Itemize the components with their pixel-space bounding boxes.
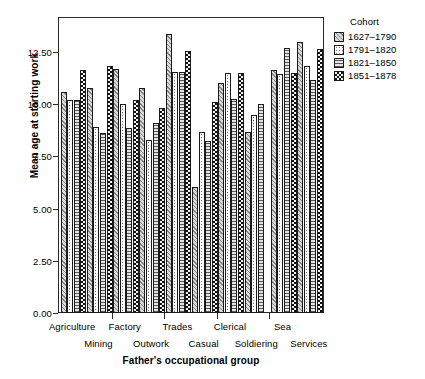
x-tick-mark [164, 313, 165, 319]
legend-item: 1821–1850 [334, 57, 422, 68]
bar [179, 72, 185, 313]
bar-group [138, 18, 164, 313]
bar [192, 187, 198, 313]
bar [126, 128, 132, 313]
bar-group [164, 18, 190, 313]
x-tick-label: Outwork [133, 338, 169, 349]
bar [199, 132, 205, 313]
x-tick-label: Soldiering [235, 338, 278, 349]
legend-swatch [334, 45, 344, 55]
x-tick-label: Sea [274, 321, 291, 332]
legend-label: 1791–1820 [348, 44, 396, 55]
bar [304, 66, 310, 313]
bar [100, 133, 106, 313]
bar-group [217, 18, 243, 313]
bar [166, 34, 172, 313]
x-axis-title: Father's occupational group [58, 355, 324, 366]
bar [120, 104, 126, 313]
x-tick-label: Factory [109, 321, 141, 332]
x-tick-label: Mining [84, 338, 113, 349]
bar [153, 123, 159, 313]
x-tick-mark [269, 313, 270, 319]
bar [258, 104, 264, 313]
x-tick-label: Casual [189, 338, 219, 349]
x-tick-mark [217, 313, 218, 319]
bar [317, 49, 323, 313]
y-tick-label: 2.50 [33, 255, 52, 266]
bar [113, 69, 119, 313]
bar-group [112, 18, 138, 313]
bar [284, 48, 290, 313]
bar [251, 115, 257, 313]
y-axis-tick-labels: 0.002.505.007.5010.0012.50 [0, 0, 52, 379]
bar [218, 83, 224, 313]
y-tick-mark [53, 156, 58, 157]
x-tick-label: Agriculture [49, 321, 96, 332]
legend-swatch [334, 58, 344, 68]
y-tick-mark [53, 52, 58, 53]
legend-label: 1851–1878 [348, 70, 396, 81]
legend-item: 1791–1820 [334, 44, 422, 55]
bar-group [269, 18, 295, 313]
y-tick-mark [53, 209, 58, 210]
y-tick-mark [53, 261, 58, 262]
bar [225, 73, 231, 313]
bar [87, 88, 93, 314]
bar [93, 127, 99, 313]
legend-label: 1627–1790 [348, 31, 396, 42]
bar [277, 74, 283, 313]
bar-group [243, 18, 269, 313]
bar [245, 132, 251, 313]
bar [310, 80, 316, 313]
bar [172, 72, 178, 313]
x-tick-label: Services [290, 338, 327, 349]
legend-title: Cohort [350, 16, 422, 27]
bar [146, 140, 152, 313]
legend-swatch [334, 71, 344, 81]
bar [61, 92, 67, 313]
legend-label: 1821–1850 [348, 57, 396, 68]
bar-group [59, 18, 85, 313]
x-tick-mark [112, 313, 113, 319]
bar-group [296, 18, 322, 313]
x-tick-label: Trades [162, 321, 192, 332]
bar [297, 42, 303, 313]
bar-group [191, 18, 217, 313]
bar [67, 100, 73, 313]
legend-item: 1627–1790 [334, 31, 422, 42]
bar [271, 70, 277, 313]
x-tick-label: Clerical [214, 321, 246, 332]
bar [231, 99, 237, 313]
bar-group [85, 18, 111, 313]
bar [74, 100, 80, 313]
y-tick-mark [53, 313, 58, 314]
legend-swatch [334, 32, 344, 42]
legend-items: 1627–17901791–18201821–18501851–1878 [334, 31, 422, 81]
bar [139, 88, 145, 314]
y-axis-title: Mean age at starting work [29, 16, 40, 216]
y-tick-mark [53, 104, 58, 105]
legend-item: 1851–1878 [334, 70, 422, 81]
plot-area [59, 18, 323, 313]
bar-chart-figure: 0.002.505.007.5010.0012.50 Mean age at s… [0, 0, 425, 379]
bar [205, 141, 211, 313]
legend: Cohort 1627–17901791–18201821–18501851–1… [334, 16, 422, 83]
y-tick-label: 0.00 [33, 308, 52, 319]
